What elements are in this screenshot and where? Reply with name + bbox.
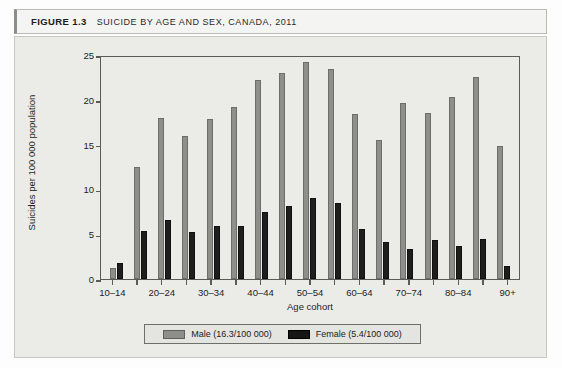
- bar-group: [443, 57, 467, 279]
- legend-swatch-male-icon: [163, 330, 185, 339]
- bar-female: [141, 231, 147, 279]
- chart-legend: Male (16.3/100 000) Female (5.4/100 000): [144, 324, 421, 344]
- figure-number: FIGURE 1.3: [31, 16, 87, 27]
- legend-item-female: Female (5.4/100 000): [288, 329, 402, 339]
- bar-group: [177, 57, 201, 279]
- bar-male: [303, 62, 309, 279]
- x-tick-mark: [235, 280, 236, 285]
- x-tick-mark: [186, 280, 187, 285]
- bar-group: [322, 57, 346, 279]
- y-tick-label: 5: [69, 229, 94, 240]
- plot-wrapper: Suicides per 100 000 population 05101520…: [15, 37, 548, 359]
- y-axis-label: Suicides per 100 000 population: [26, 78, 37, 248]
- plot-area: 0510152025: [100, 56, 520, 280]
- bar-female: [359, 229, 365, 279]
- y-tick-label: 25: [69, 50, 94, 61]
- bar-female: [480, 239, 486, 279]
- bar-female: [238, 226, 244, 279]
- legend-swatch-female-icon: [288, 330, 310, 339]
- bar-group: [419, 57, 443, 279]
- bar-female: [286, 206, 292, 279]
- bar-male: [255, 80, 261, 279]
- bar-female: [189, 232, 195, 279]
- bar-male: [182, 136, 188, 279]
- x-tick-mark: [507, 280, 508, 285]
- x-tick-mark: [161, 280, 162, 285]
- bar-male: [352, 114, 358, 279]
- x-tick-label: 90+: [480, 287, 536, 298]
- x-tick-label: 50–54: [282, 287, 338, 298]
- bar-female: [432, 240, 438, 279]
- y-tick-mark: [96, 191, 101, 192]
- bar-series-container: [101, 57, 519, 279]
- bar-male: [400, 103, 406, 280]
- x-tick-label: 40–44: [233, 287, 289, 298]
- bar-group: [128, 57, 152, 279]
- bar-male: [449, 97, 455, 279]
- x-tick-mark: [433, 280, 434, 285]
- bar-male: [497, 146, 503, 279]
- x-tick-label: 80–84: [430, 287, 486, 298]
- x-tick-mark: [285, 280, 286, 285]
- bar-male: [110, 268, 116, 279]
- bar-group: [104, 57, 128, 279]
- x-tick-mark: [334, 280, 335, 285]
- x-tick-label: 70–74: [381, 287, 437, 298]
- bar-male: [134, 167, 140, 279]
- bar-female: [335, 203, 341, 279]
- bar-group: [201, 57, 225, 279]
- x-tick-mark: [383, 280, 384, 285]
- x-tick-mark: [210, 280, 211, 285]
- y-tick-mark: [96, 236, 101, 237]
- bar-female: [165, 220, 171, 279]
- bar-female: [117, 263, 123, 279]
- chart-panel: Suicides per 100 000 population 05101520…: [14, 36, 547, 358]
- bar-group: [274, 57, 298, 279]
- y-tick-mark: [96, 101, 101, 102]
- bar-female: [310, 198, 316, 279]
- bar-group: [225, 57, 249, 279]
- figure-caption: SUICIDE BY AGE AND SEX, CANADA, 2011: [97, 17, 297, 27]
- bar-male: [279, 73, 285, 279]
- x-tick-label: 60–64: [331, 287, 387, 298]
- bar-group: [371, 57, 395, 279]
- bar-male: [207, 119, 213, 279]
- x-tick-mark: [309, 280, 310, 285]
- x-tick-mark: [359, 280, 360, 285]
- x-tick-mark: [482, 280, 483, 285]
- x-tick-label: 10–14: [84, 287, 140, 298]
- y-tick-mark: [96, 56, 101, 57]
- bar-group: [298, 57, 322, 279]
- x-axis-label: Age cohort: [100, 301, 520, 312]
- legend-label-male: Male (16.3/100 000): [191, 329, 272, 339]
- bar-male: [473, 77, 479, 279]
- bar-male: [425, 113, 431, 279]
- figure-root: FIGURE 1.3 SUICIDE BY AGE AND SEX, CANAD…: [0, 0, 562, 368]
- y-tick-mark: [96, 146, 101, 147]
- bar-female: [214, 226, 220, 279]
- bar-male: [328, 69, 334, 279]
- bar-group: [395, 57, 419, 279]
- bar-female: [407, 249, 413, 279]
- bar-female: [383, 242, 389, 279]
- y-tick-label: 15: [69, 140, 94, 151]
- bar-male: [376, 140, 382, 279]
- bar-female: [262, 212, 268, 279]
- y-tick-label: 20: [69, 95, 94, 106]
- x-tick-mark: [260, 280, 261, 285]
- figure-title-bar: FIGURE 1.3 SUICIDE BY AGE AND SEX, CANAD…: [14, 9, 547, 34]
- x-tick-mark: [458, 280, 459, 285]
- y-tick-label: 10: [69, 184, 94, 195]
- bar-group: [152, 57, 176, 279]
- bar-male: [158, 118, 164, 279]
- bar-group: [346, 57, 370, 279]
- x-tick-mark: [408, 280, 409, 285]
- bar-female: [456, 246, 462, 279]
- bar-female: [504, 266, 510, 279]
- bar-group: [249, 57, 273, 279]
- bar-group: [492, 57, 516, 279]
- x-tick-mark: [136, 280, 137, 285]
- x-tick-mark: [112, 280, 113, 285]
- bar-male: [231, 107, 237, 279]
- legend-label-female: Female (5.4/100 000): [316, 329, 402, 339]
